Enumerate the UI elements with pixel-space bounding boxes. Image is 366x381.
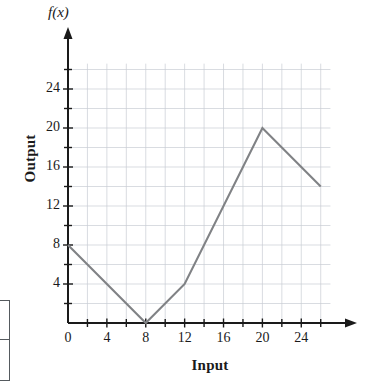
x-tick-label: 4 — [95, 330, 119, 346]
y-axis-function-label: f(x) — [48, 4, 69, 21]
x-axis-title: Input — [160, 357, 260, 374]
y-tick-label: 12 — [32, 197, 60, 213]
y-tick-label: 8 — [32, 236, 60, 252]
y-tick-label: 24 — [32, 80, 60, 96]
x-tick-label: 8 — [134, 330, 158, 346]
x-tick-label: 16 — [212, 330, 236, 346]
x-tick-label: 24 — [289, 330, 313, 346]
y-tick-label: 4 — [32, 275, 60, 291]
adjacent-table-fragment — [0, 300, 10, 381]
x-tick-label: 20 — [250, 330, 274, 346]
function-graph-figure: f(x) Output Input 4812162024 04812162024 — [0, 0, 366, 381]
y-tick-label: 20 — [32, 119, 60, 135]
x-tick-label: 0 — [56, 330, 80, 346]
plot-canvas — [0, 0, 366, 381]
x-tick-label: 12 — [173, 330, 197, 346]
table-fragment-divider — [0, 339, 9, 340]
y-tick-label: 16 — [32, 158, 60, 174]
